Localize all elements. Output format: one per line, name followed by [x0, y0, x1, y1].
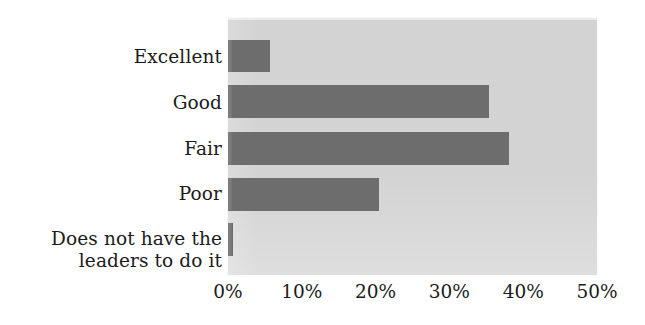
category-label-poor: Poor — [0, 183, 222, 205]
plot-top-edge — [228, 18, 597, 20]
value-axis: 0% 10% 20% 30% 40% 50% — [228, 280, 597, 310]
category-label-does-not-have-the-leaders-to-do-it: Does not have the leaders to do it — [0, 228, 222, 272]
bar-fair — [228, 132, 509, 165]
tick-label-1: 10% — [281, 280, 322, 304]
category-label-excellent: Excellent — [0, 46, 222, 68]
tick-label-3: 30% — [429, 280, 470, 304]
category-label-good: Good — [0, 92, 222, 114]
bar-chart: Excellent Good Fair Poor Does not have t… — [0, 0, 645, 325]
category-axis: Excellent Good Fair Poor Does not have t… — [0, 0, 222, 325]
tick-label-2: 20% — [355, 280, 396, 304]
plot-area — [228, 18, 597, 275]
tick-label-5: 50% — [576, 280, 617, 304]
bar-poor — [228, 178, 379, 211]
tick-label-0: 0% — [213, 280, 242, 304]
bar-good — [228, 85, 489, 118]
bar-excellent — [228, 40, 270, 72]
category-label-fair: Fair — [0, 138, 222, 160]
tick-label-4: 40% — [503, 280, 544, 304]
bar-does-not-have-the-leaders-to-do-it — [228, 223, 233, 256]
